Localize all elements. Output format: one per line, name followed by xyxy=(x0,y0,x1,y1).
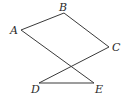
label-b: B xyxy=(59,2,67,13)
label-c: C xyxy=(112,42,120,53)
label-a: A xyxy=(10,25,18,36)
segment-ab xyxy=(21,13,64,30)
segment-ea xyxy=(21,30,94,83)
diagram-lines xyxy=(0,0,128,98)
label-d: D xyxy=(31,84,40,95)
segment-bc xyxy=(64,13,109,47)
segment-cd xyxy=(39,47,109,83)
geometry-diagram: A B C D E xyxy=(0,0,128,98)
label-e: E xyxy=(95,84,103,95)
